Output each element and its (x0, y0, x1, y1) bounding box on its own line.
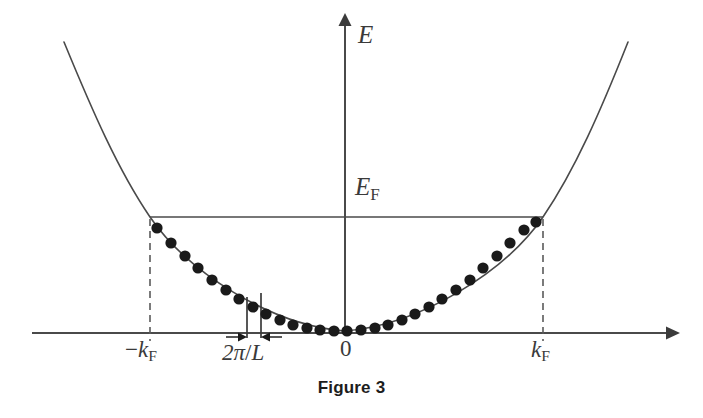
fermi-energy-label: EF (355, 174, 380, 203)
state-dot (260, 308, 271, 319)
kf-label: kF (531, 338, 550, 364)
figure-canvas: E EF 0 −kF kF 2π/L Figure 3 (0, 0, 703, 418)
kf-subscript: F (541, 347, 550, 364)
state-dot (274, 314, 285, 325)
state-dot (328, 325, 339, 336)
state-dot (179, 250, 190, 261)
state-dot (423, 301, 434, 312)
state-dot (341, 325, 352, 336)
k-axis-arrowhead (666, 327, 680, 340)
state-dot (301, 322, 312, 333)
spacing-denominator: L (251, 340, 264, 365)
kf-subscript: F (148, 347, 157, 364)
state-dot (530, 216, 541, 227)
energy-axis-label: E (358, 22, 373, 47)
state-dot (477, 262, 488, 273)
state-dot (450, 284, 461, 295)
state-dot (382, 319, 393, 330)
state-dot (436, 293, 447, 304)
state-dot (247, 301, 258, 312)
state-dot (409, 308, 420, 319)
state-dot (464, 274, 475, 285)
state-dot (165, 237, 176, 248)
state-dot (192, 262, 203, 273)
state-dot (287, 319, 298, 330)
state-dot (518, 224, 529, 235)
state-dot (369, 322, 380, 333)
figure-caption: Figure 3 (0, 378, 703, 398)
state-dot (233, 293, 244, 304)
state-dot (355, 324, 366, 335)
state-dot (504, 237, 515, 248)
state-dot (396, 314, 407, 325)
energy-axis-arrowhead (339, 13, 352, 26)
state-dot (314, 324, 325, 335)
state-dot (491, 250, 502, 261)
origin-label: 0 (340, 337, 352, 360)
minus-sign: − (125, 337, 138, 362)
dispersion-plot (0, 0, 703, 418)
spacing-numerator: 2π (222, 340, 245, 365)
state-dot (206, 274, 217, 285)
state-dot (151, 222, 162, 233)
state-spacing-label: 2π/L (222, 341, 264, 364)
minus-kf-label: −kF (125, 338, 157, 364)
fermi-energy-subscript: F (370, 185, 379, 204)
state-dot (220, 284, 231, 295)
